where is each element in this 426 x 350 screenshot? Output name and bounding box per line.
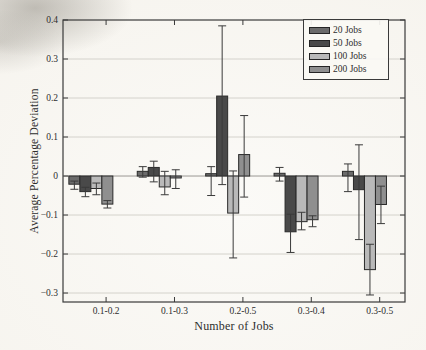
legend: 20 Jobs50 Jobs100 Jobs200 Jobs — [303, 19, 389, 80]
y-tick-label: 0 — [53, 171, 58, 181]
y-tick-label: 0.3 — [46, 54, 58, 64]
y-tick-label: 0.4 — [46, 15, 58, 25]
y-tick-label: 0.2 — [46, 93, 58, 103]
legend-label: 100 Jobs — [330, 50, 367, 62]
bar-200-jobs — [307, 176, 318, 220]
legend-label: 50 Jobs — [330, 37, 362, 49]
x-tick-label: 0.1-0.3 — [161, 306, 188, 316]
legend-item: 20 Jobs — [309, 24, 384, 36]
x-tick-label: 0.3-0.5 — [366, 306, 393, 316]
legend-swatch-icon — [309, 66, 330, 73]
legend-label: 20 Jobs — [330, 24, 362, 36]
figure: 0.40.30.20.10−0.1−0.2−0.30.1-0.20.1-0.30… — [0, 0, 426, 350]
legend-swatch-icon — [309, 53, 330, 60]
legend-item: 50 Jobs — [309, 37, 384, 49]
bar-200-jobs — [102, 176, 113, 204]
legend-swatch-icon — [309, 40, 330, 47]
y-axis-label: Average Percentage Deviation — [28, 11, 44, 311]
y-tick-label: 0.1 — [46, 132, 58, 142]
legend-label: 200 Jobs — [330, 63, 367, 75]
legend-item: 100 Jobs — [309, 50, 384, 62]
x-axis-label: Number of Jobs — [63, 319, 405, 334]
legend-swatch-icon — [309, 27, 330, 34]
x-tick-label: 0.1-0.2 — [93, 306, 120, 316]
legend-item: 200 Jobs — [309, 63, 384, 75]
x-tick-label: 0.2-0.5 — [229, 306, 256, 316]
x-tick-label: 0.3-0.4 — [298, 306, 325, 316]
